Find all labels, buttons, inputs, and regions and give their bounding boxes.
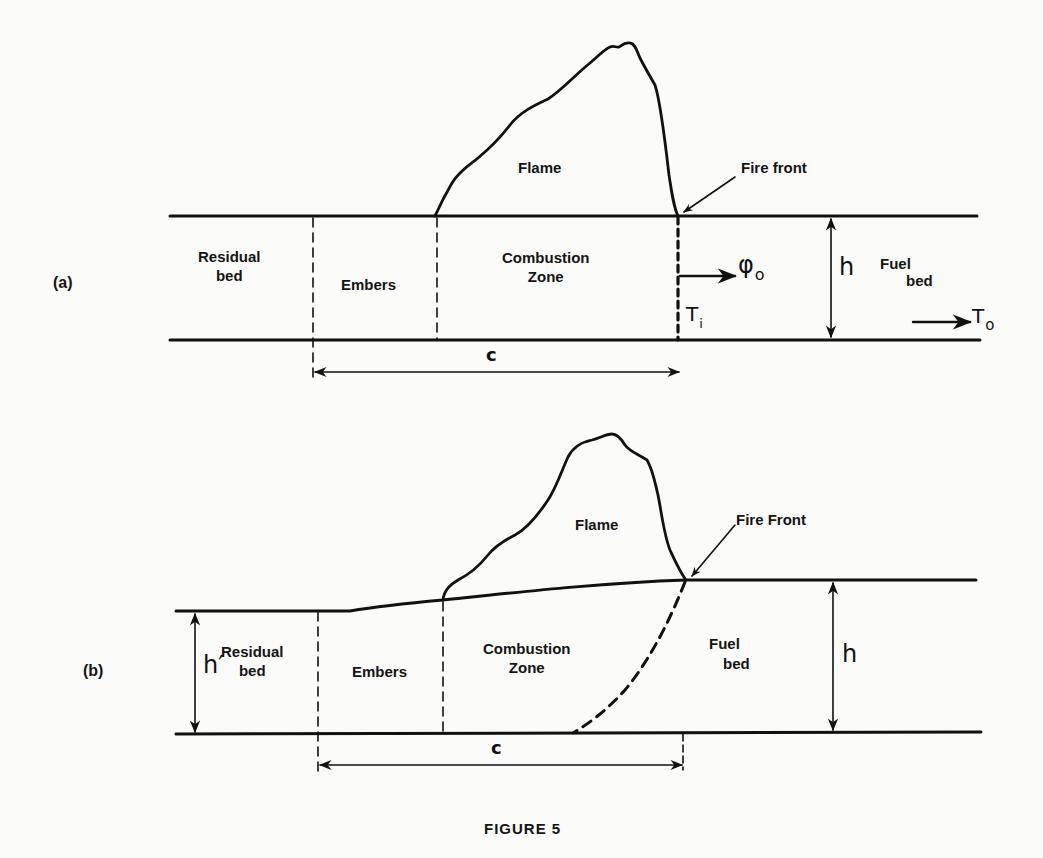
ti-symbol: T [686, 302, 698, 326]
to-symbol: T [972, 304, 984, 328]
flame-outline [435, 43, 678, 216]
residual-bed-label: Residual bed [198, 247, 261, 285]
residual-bed-label: Residual bed [221, 642, 284, 680]
panel-b-drawing [176, 434, 981, 772]
figure-caption: FIGURE 5 [484, 819, 561, 838]
embers-label: Embers [352, 662, 407, 681]
height-label: h [842, 645, 857, 664]
fire-front-label: Fire Front [736, 510, 806, 529]
c-label: c [486, 345, 497, 364]
ambient-temp-label: To [972, 307, 994, 328]
heat-flux-label: φo [738, 256, 765, 277]
flame-label: Flame [518, 158, 561, 177]
ignition-temp-label: Ti [686, 305, 703, 326]
phi-subscript: o [755, 265, 765, 284]
fire-front-pointer [692, 525, 735, 576]
ti-subscript: i [699, 316, 703, 331]
fire-front-curve [573, 582, 685, 733]
figure-drawing [0, 0, 1043, 858]
fire-front-label: Fire front [741, 158, 807, 177]
fuel-bed-label-line2: bed [723, 654, 750, 673]
flame-label: Flame [575, 515, 618, 534]
panel-b-tag: (b) [83, 661, 103, 680]
fire-front-pointer [684, 177, 735, 212]
fuel-bed-label-line2: bed [906, 271, 933, 290]
residual-height-label: h′ [203, 656, 224, 675]
flame-outline [443, 434, 686, 600]
panel-a-drawing [170, 43, 980, 378]
bed-bottom-line [176, 732, 981, 734]
embers-label: Embers [341, 275, 396, 294]
c-label: c [491, 738, 502, 757]
panel-a-tag: (a) [53, 273, 73, 292]
combustion-zone-label: Combustion Zone [483, 639, 571, 677]
combustion-zone-label: Combustion Zone [502, 248, 590, 286]
fuel-bed-label-line1: Fuel [709, 634, 740, 653]
bed-top-surface [176, 580, 976, 611]
to-subscript: o [985, 316, 994, 334]
phi-symbol: φ [738, 251, 754, 279]
height-label: h [839, 258, 854, 277]
